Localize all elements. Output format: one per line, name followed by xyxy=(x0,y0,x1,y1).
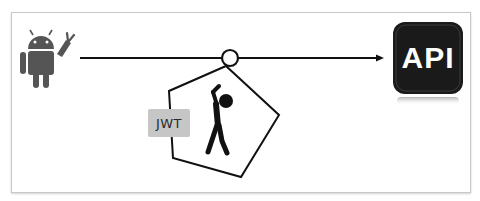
api-label: API xyxy=(393,22,463,94)
android-robot-icon xyxy=(20,30,74,88)
jwt-badge: JWT xyxy=(148,109,190,137)
person-hanging-icon xyxy=(208,86,233,153)
pulley-ring xyxy=(222,50,238,66)
